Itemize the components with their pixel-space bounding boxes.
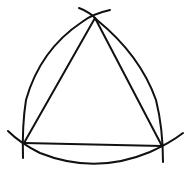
arc-right xyxy=(79,8,163,162)
construction-svg xyxy=(0,0,190,173)
diagram-canvas: Equilateral triangle construction with c… xyxy=(0,0,190,173)
triangle-side-base xyxy=(24,143,162,146)
triangle-side-right xyxy=(95,18,162,146)
arc-left xyxy=(23,10,110,158)
triangle-side-left xyxy=(24,18,95,143)
